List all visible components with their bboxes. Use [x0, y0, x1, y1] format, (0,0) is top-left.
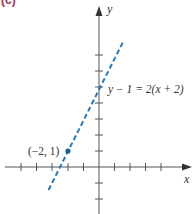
y-axis: y [95, 2, 113, 214]
x-axis-label: x [183, 172, 190, 186]
x-axis-arrow-icon [182, 164, 192, 171]
point-label: (−2, 1) [28, 145, 60, 158]
equation-label: y − 1 = 2(x + 2) [107, 83, 184, 96]
dashed-line-series [49, 42, 124, 190]
y-axis-arrow-icon [96, 6, 103, 16]
y-axis-label: y [106, 2, 113, 16]
panel-label: (c) [1, 0, 16, 7]
point-marker [65, 148, 70, 153]
graph: (c) x y [0, 0, 194, 214]
